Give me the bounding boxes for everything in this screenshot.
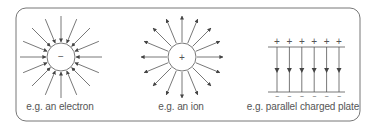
electron-caption: e.g. an electron [26, 101, 93, 112]
field-line-arrow [45, 19, 55, 43]
positive-sign: + [324, 36, 330, 47]
field-line-arrow [72, 68, 90, 86]
field-line-arrow [193, 68, 211, 86]
positive-sign: + [274, 36, 280, 47]
negative-sign: − [275, 93, 279, 100]
field-line-arrow [153, 28, 171, 46]
field-line-arrow [45, 71, 55, 95]
field-line-arrow [75, 63, 99, 73]
negative-sign: − [312, 93, 316, 100]
negative-sign: − [287, 93, 291, 100]
negative-sign: − [337, 93, 341, 100]
field-line-arrow [23, 41, 47, 51]
field-arrow-head [299, 68, 304, 73]
positive-sign: + [336, 36, 342, 47]
parallel-plates-diagram [268, 47, 345, 92]
field-arrow-head [337, 68, 342, 73]
field-line-arrow [67, 71, 77, 95]
plates-caption: e.g. parallel charged plate [247, 101, 359, 112]
electron-charge-sign: − [58, 51, 64, 62]
field-line-arrow [166, 71, 176, 95]
field-line-arrow [193, 28, 211, 46]
field-line-arrow [23, 63, 47, 73]
negative-sign: − [325, 93, 329, 100]
positive-sign: + [311, 36, 317, 47]
field-line-arrow [75, 41, 99, 51]
field-line-arrow [166, 19, 176, 43]
negative-sign: − [300, 93, 304, 100]
field-line-arrow [72, 28, 90, 46]
field-line-arrow [144, 41, 168, 51]
ion-charge-sign: + [179, 52, 185, 63]
positive-sign: + [286, 36, 292, 47]
field-line-arrow [188, 19, 198, 43]
field-line-arrow [196, 41, 220, 51]
field-line-arrow [153, 68, 171, 86]
positive-sign: + [299, 36, 305, 47]
field-line-arrow [196, 63, 220, 73]
field-line-arrow [67, 19, 77, 43]
field-arrow-head [324, 68, 329, 73]
field-arrow-head [275, 68, 280, 73]
field-arrow-head [312, 68, 317, 73]
field-line-arrow [144, 63, 168, 73]
ion-caption: e.g. an ion [158, 101, 204, 112]
field-line-arrow [32, 28, 50, 46]
field-line-arrow [188, 71, 198, 95]
field-arrow-head [287, 68, 292, 73]
field-line-arrow [32, 68, 50, 86]
